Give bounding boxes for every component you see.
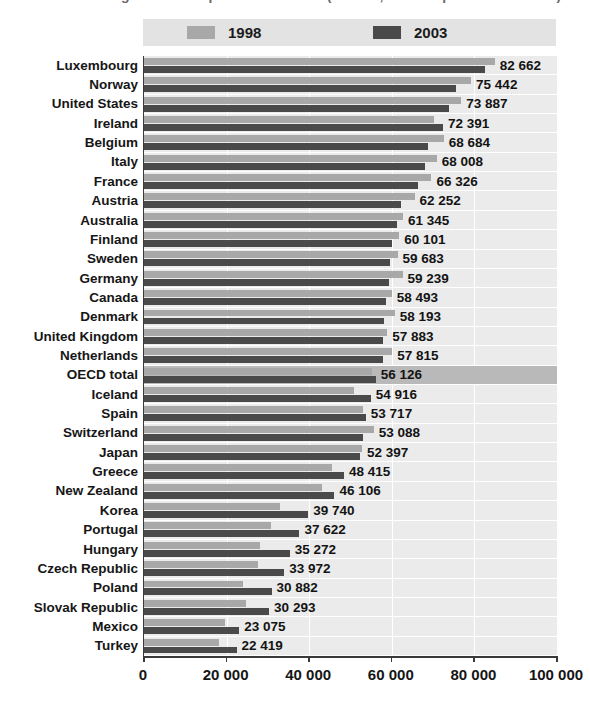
value-label: 68 684 [449, 135, 490, 150]
chart-row [144, 598, 557, 617]
chart-row [144, 133, 557, 152]
bar-2003 [144, 492, 334, 499]
chart-row [144, 385, 557, 404]
cut-off-title: Figure 1. GDP per hour worked (in USD, c… [0, 0, 590, 8]
chart-row [144, 559, 557, 578]
legend-label-2003: 2003 [414, 25, 447, 40]
category-label: Iceland [0, 387, 138, 402]
bar-1998 [144, 619, 225, 626]
bar-2003 [144, 163, 425, 170]
bar-1998 [144, 116, 434, 123]
chart-row [144, 114, 557, 133]
value-label: 82 662 [500, 58, 541, 73]
value-label: 58 193 [400, 309, 441, 324]
bar-1998 [144, 445, 362, 452]
value-label: 37 622 [304, 522, 345, 537]
chart-row [144, 308, 557, 327]
chart-row [144, 269, 557, 288]
bar-1998 [144, 271, 403, 278]
category-label: Ireland [0, 116, 138, 131]
bar-chart: LuxembourgNorwayUnited StatesIrelandBelg… [0, 56, 590, 715]
bar-1998 [144, 348, 392, 355]
chart-row [144, 172, 557, 191]
value-label: 22 419 [242, 638, 283, 653]
bar-2003 [144, 434, 363, 441]
chart-row [144, 346, 557, 365]
category-label: New Zealand [0, 483, 138, 498]
value-label: 57 883 [392, 329, 433, 344]
bar-1998 [144, 77, 471, 84]
value-label: 53 088 [379, 425, 420, 440]
value-label: 39 740 [313, 503, 354, 518]
bar-2003 [144, 511, 308, 518]
value-label: 62 252 [420, 193, 461, 208]
category-label: Italy [0, 154, 138, 169]
category-label: Greece [0, 464, 138, 479]
chart-row [144, 637, 557, 656]
bar-1998 [144, 310, 395, 317]
x-tick-label: 40 000 [285, 666, 331, 683]
bar-2003 [144, 453, 360, 460]
bar-2003 [144, 221, 397, 228]
category-label: Japan [0, 445, 138, 460]
category-label: Hungary [0, 542, 138, 557]
x-tick [308, 656, 310, 662]
bar-1998 [144, 155, 437, 162]
legend-entry-2003: 2003 [373, 25, 447, 40]
value-label: 35 272 [295, 542, 336, 557]
category-label: Canada [0, 290, 138, 305]
bar-1998 [144, 135, 444, 142]
category-label: Sweden [0, 251, 138, 266]
category-label: Czech Republic [0, 561, 138, 576]
bar-2003 [144, 318, 384, 325]
category-label: Slovak Republic [0, 600, 138, 615]
chart-row [144, 404, 557, 423]
x-tick [556, 656, 558, 662]
value-label: 66 326 [436, 174, 477, 189]
bar-1998 [144, 484, 322, 491]
chart-row [144, 366, 557, 385]
bar-1998 [144, 542, 260, 549]
category-label: Spain [0, 406, 138, 421]
value-label: 54 916 [376, 387, 417, 402]
x-tick [226, 656, 228, 662]
category-label: Denmark [0, 309, 138, 324]
bar-1998 [144, 561, 258, 568]
category-label: Australia [0, 213, 138, 228]
value-label: 56 126 [381, 367, 422, 382]
chart-row [144, 540, 557, 559]
chart-legend: 1998 2003 [143, 19, 556, 46]
bar-2003 [144, 124, 443, 131]
bar-2003 [144, 337, 383, 344]
category-label: Poland [0, 580, 138, 595]
category-label: Norway [0, 77, 138, 92]
value-label: 59 683 [403, 251, 444, 266]
category-label: Switzerland [0, 425, 138, 440]
chart-row [144, 191, 557, 210]
value-label: 33 972 [289, 561, 330, 576]
chart-row [144, 521, 557, 540]
bar-2003 [144, 588, 272, 595]
bar-2003 [144, 376, 376, 383]
category-label: Netherlands [0, 348, 138, 363]
chart-row [144, 424, 557, 443]
x-axis-line [143, 656, 556, 658]
bar-1998 [144, 290, 392, 297]
bar-1998 [144, 639, 219, 646]
category-label: Finland [0, 232, 138, 247]
value-label: 68 008 [442, 154, 483, 169]
bar-2003 [144, 201, 401, 208]
chart-row [144, 56, 557, 75]
bar-1998 [144, 522, 271, 529]
chart-row [144, 250, 557, 269]
category-label: Austria [0, 193, 138, 208]
bar-1998 [144, 58, 495, 65]
bar-1998 [144, 97, 461, 104]
legend-label-1998: 1998 [228, 25, 261, 40]
bar-2003 [144, 143, 428, 150]
bar-1998 [144, 426, 374, 433]
bar-1998 [144, 600, 246, 607]
bar-2003 [144, 259, 390, 266]
value-label: 60 101 [404, 232, 445, 247]
x-tick-label: 0 [139, 666, 147, 683]
